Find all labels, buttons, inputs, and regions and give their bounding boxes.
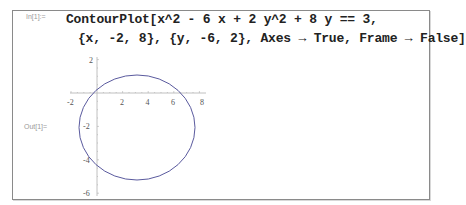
y-tick-label: -6 xyxy=(83,189,90,198)
x-tick-label: 2 xyxy=(120,98,124,107)
x-tick-label: 6 xyxy=(171,98,175,107)
y-tick-label: 2 xyxy=(89,56,93,65)
x-tick-label: -2 xyxy=(67,98,74,107)
contour-curve xyxy=(79,75,195,180)
y-tick-label: -2 xyxy=(83,122,90,131)
y-axis: 2 -2 -4 -6 xyxy=(83,56,99,199)
x-tick-label: 8 xyxy=(200,98,204,107)
x-tick-label: 4 xyxy=(146,98,150,107)
